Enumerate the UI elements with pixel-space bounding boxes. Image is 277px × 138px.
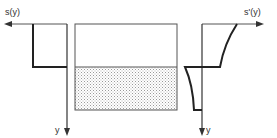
center-box bbox=[75, 24, 177, 110]
stippled-region bbox=[75, 67, 177, 110]
label-s-prime-of-y: s'(y) bbox=[244, 7, 261, 17]
step-function-s bbox=[33, 24, 67, 67]
down-arrow-icon bbox=[64, 128, 70, 136]
down-arrow-icon bbox=[199, 128, 205, 136]
right-arrow-icon bbox=[256, 21, 264, 27]
label-y-left: y bbox=[55, 125, 60, 135]
label-s-of-y: s(y) bbox=[5, 7, 20, 17]
left-plot: s(y) y bbox=[4, 7, 70, 136]
derivative-curve-s-prime bbox=[185, 24, 237, 110]
diagram-canvas: s(y) y s'(y) y bbox=[0, 0, 277, 138]
right-plot: s'(y) y bbox=[185, 7, 264, 136]
left-arrow-icon bbox=[4, 21, 12, 27]
label-y-right: y bbox=[206, 125, 211, 135]
